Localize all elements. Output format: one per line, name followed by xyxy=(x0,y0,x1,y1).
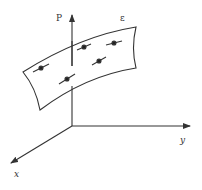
x-axis-label: x xyxy=(14,169,19,179)
x-axis xyxy=(11,126,72,163)
diagram-canvas: P ε y x xyxy=(0,0,202,190)
p-axis-label: P xyxy=(56,13,62,23)
y-axis-label: y xyxy=(179,135,186,145)
surface-label: ε xyxy=(120,13,125,23)
